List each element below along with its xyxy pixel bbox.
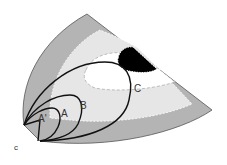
label-a-prime: A' [38,113,47,124]
label-a: A [61,108,68,119]
label-c: C [134,83,141,94]
diagram: A' A B C c [0,0,227,165]
panel-label: c [14,143,18,152]
label-b: B [80,100,87,111]
